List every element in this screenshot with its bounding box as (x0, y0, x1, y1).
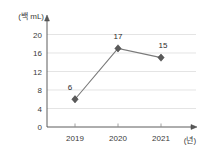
data-point-marker-2021 (158, 54, 164, 61)
y-axis (45, 15, 50, 127)
x-tickmarks (75, 124, 161, 128)
y-tick-label-4: 4 (38, 105, 43, 114)
data-point-label-2019: 6 (68, 83, 73, 92)
x-axis (47, 125, 197, 130)
chart-canvas: 20 16 12 8 4 0 2019 2020 2021 (백 mL) (년)… (0, 0, 214, 157)
x-tick-label-2019: 2019 (66, 134, 84, 143)
gridlines (47, 35, 196, 109)
line-chart-figure: 20 16 12 8 4 0 2019 2020 2021 (백 mL) (년)… (0, 0, 214, 157)
y-axis-arrow-icon (45, 15, 50, 21)
y-tick-label-20: 20 (33, 31, 42, 40)
x-tick-labels: 2019 2020 2021 (66, 134, 170, 143)
data-series-line (75, 48, 161, 99)
x-axis-unit-label: (년) (184, 135, 197, 145)
x-tick-label-2020: 2020 (109, 134, 127, 143)
data-point-label-2020: 17 (114, 32, 123, 41)
data-point-labels: 6 17 15 (68, 32, 168, 92)
y-tick-label-12: 12 (33, 68, 42, 77)
y-tick-label-0: 0 (38, 123, 43, 132)
y-tick-label-16: 16 (33, 49, 42, 58)
data-markers (72, 45, 164, 103)
x-tick-label-2021: 2021 (152, 134, 170, 143)
y-axis-unit-label: (백 mL) (18, 11, 44, 21)
x-axis-arrow-icon (191, 125, 197, 130)
y-tick-label-8: 8 (38, 86, 43, 95)
data-point-label-2021: 15 (159, 41, 168, 50)
y-tick-labels: 20 16 12 8 4 0 (33, 31, 42, 133)
